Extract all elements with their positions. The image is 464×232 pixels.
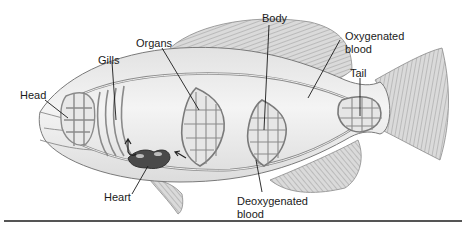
label-organs: Organs <box>136 37 172 49</box>
bottom-rule <box>4 220 462 222</box>
label-gills: Gills <box>98 54 119 66</box>
label-body: Body <box>262 12 287 24</box>
label-deoxygenated-1: Deoxygenated <box>237 195 308 207</box>
pelvic-fin <box>150 180 183 214</box>
heart <box>128 150 170 169</box>
label-tail: Tail <box>350 67 367 79</box>
label-heart: Heart <box>104 191 131 203</box>
label-head: Head <box>20 89 46 101</box>
label-oxygenated-2: blood <box>345 43 372 55</box>
label-oxygenated-1: Oxygenated <box>345 30 404 42</box>
label-deoxygenated-2: blood <box>237 208 264 220</box>
